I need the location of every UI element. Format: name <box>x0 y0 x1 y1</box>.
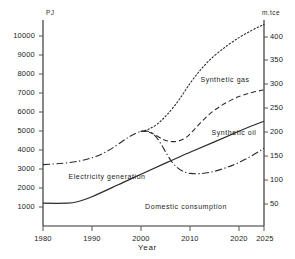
y2-tick-label-400: 400 <box>270 32 295 41</box>
y-tick-label-10000: 10000 <box>1 31 35 40</box>
y-tick-label-7000: 7000 <box>1 88 35 97</box>
series-label-synthetic-oil: Synthetic oil <box>205 128 263 137</box>
x-axis-ticks <box>43 226 264 231</box>
x-tick-label-1990: 1990 <box>75 234 109 243</box>
y2-tick-label-350: 350 <box>270 55 295 64</box>
x-tick-label-1980: 1980 <box>26 234 60 243</box>
y2-tick-label-200: 200 <box>270 127 295 136</box>
series-label-synthetic-gas: Synthetic gas <box>196 75 254 84</box>
chart-container: PJ m.tce 10000 9000 8000 7000 6000 5000 … <box>0 0 295 259</box>
series-line-electricity-generation <box>43 131 264 174</box>
y2-axis-unit-label: m.tce <box>262 9 280 16</box>
y-tick-label-2000: 2000 <box>1 183 35 192</box>
x-tick-label-2025: 2025 <box>248 234 282 243</box>
series-label-electricity-generation: Electricity generation <box>52 172 162 181</box>
y2-tick-label-250: 250 <box>270 103 295 112</box>
y-tick-label-6000: 6000 <box>1 107 35 116</box>
x-tick-label-2000: 2000 <box>124 234 158 243</box>
y-axis-unit-label: PJ <box>46 9 54 16</box>
y2-tick-label-300: 300 <box>270 79 295 88</box>
y-tick-label-5000: 5000 <box>1 126 35 135</box>
y-tick-label-9000: 9000 <box>1 50 35 59</box>
y-tick-label-1000: 1000 <box>1 202 35 211</box>
y2-tick-label-100: 100 <box>270 175 295 184</box>
y-tick-label-4000: 4000 <box>1 145 35 154</box>
y-tick-label-8000: 8000 <box>1 69 35 78</box>
x-tick-label-2010: 2010 <box>173 234 207 243</box>
x-axis-title: Year <box>0 243 295 252</box>
y-tick-label-3000: 3000 <box>1 164 35 173</box>
y2-tick-label-50: 50 <box>270 199 295 208</box>
y2-tick-label-150: 150 <box>270 151 295 160</box>
series-label-domestic-consumption: Domestic consumption <box>131 202 241 211</box>
